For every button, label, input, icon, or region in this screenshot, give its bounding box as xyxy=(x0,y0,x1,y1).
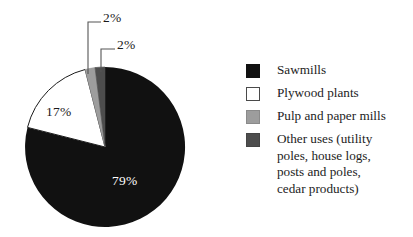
slice-value-sawmills: 79% xyxy=(112,174,137,188)
legend-swatch-other-uses xyxy=(246,133,260,147)
pie-chart-figure: 2% 2% 17% 79% Sawmills Plywood plants Pu… xyxy=(0,0,413,237)
legend-item-pulp-and-paper-mills: Pulp and paper mills xyxy=(246,108,410,125)
legend-label-plywood-plants: Plywood plants xyxy=(277,85,359,102)
legend-swatch-pulp-and-paper-mills xyxy=(246,110,260,124)
legend-swatch-plywood-plants xyxy=(246,87,260,101)
legend-label-other-uses: Other uses (utility poles, house logs, p… xyxy=(277,131,372,197)
legend-item-other-uses: Other uses (utility poles, house logs, p… xyxy=(246,131,410,197)
callout-value-other-uses: 2% xyxy=(117,38,135,52)
legend-item-sawmills: Sawmills xyxy=(246,62,410,79)
legend-label-pulp-and-paper-mills: Pulp and paper mills xyxy=(277,108,386,125)
chart-legend: Sawmills Plywood plants Pulp and paper m… xyxy=(246,62,410,197)
legend-item-plywood-plants: Plywood plants xyxy=(246,85,410,102)
callout-value-pulp-and-paper-mills: 2% xyxy=(103,11,121,25)
legend-swatch-sawmills xyxy=(246,64,260,78)
slice-value-plywood-plants: 17% xyxy=(46,105,71,119)
callout-leader-pulp xyxy=(88,22,101,74)
pie-chart-svg xyxy=(0,0,235,237)
pie-chart-plot: 2% 2% 17% 79% xyxy=(0,0,235,237)
legend-label-sawmills: Sawmills xyxy=(277,62,326,79)
